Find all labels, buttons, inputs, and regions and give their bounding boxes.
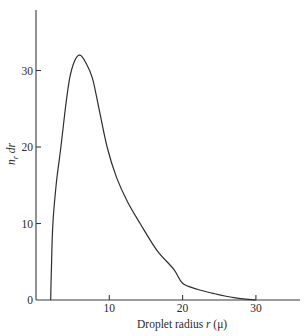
- y-ticks: 0102030: [22, 65, 42, 307]
- y-tick-label: 30: [22, 65, 34, 77]
- distribution-curve: [51, 55, 256, 300]
- y-axis-label-dr: dr: [5, 142, 17, 156]
- x-tick-label: 10: [104, 302, 116, 314]
- x-axis-label-pre: Droplet radius: [137, 318, 206, 331]
- x-axis-label: Droplet radius r (μ): [137, 318, 227, 331]
- y-axis-label: nr dr: [5, 142, 20, 165]
- x-tick-label: 30: [250, 302, 262, 314]
- droplet-distribution-chart: 0102030 102030 Droplet radius r (μ) nr d…: [0, 0, 308, 336]
- y-tick-label: 10: [22, 218, 34, 230]
- x-axis-label-unit: (μ): [210, 318, 227, 331]
- y-tick-label: 20: [22, 141, 34, 153]
- x-tick-label: 20: [177, 302, 189, 314]
- y-tick-label: 0: [27, 294, 33, 306]
